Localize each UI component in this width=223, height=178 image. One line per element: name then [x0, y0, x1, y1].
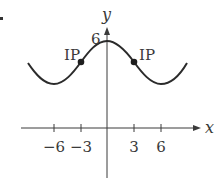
y-max-label: 6 — [91, 30, 101, 48]
bullet-marker — [0, 17, 3, 20]
y-axis — [104, 27, 110, 178]
function-graph: y 6 IP IP x −6 −3 3 6 — [0, 0, 223, 178]
x-tick-label-neg3: −3 — [70, 138, 92, 156]
y-axis-arrow-icon — [104, 27, 110, 35]
inflection-point-right — [131, 59, 138, 66]
ip-label-left: IP — [64, 46, 80, 64]
x-tick-label-6: 6 — [156, 138, 166, 156]
x-tick-label-3: 3 — [129, 138, 139, 156]
x-tick-label-neg6: −6 — [43, 138, 65, 156]
x-axis — [21, 124, 201, 132]
x-axis-arrow-icon — [193, 125, 201, 131]
x-axis-label: x — [205, 118, 214, 137]
y-axis-label: y — [101, 5, 112, 24]
ip-label-right: IP — [139, 46, 155, 64]
